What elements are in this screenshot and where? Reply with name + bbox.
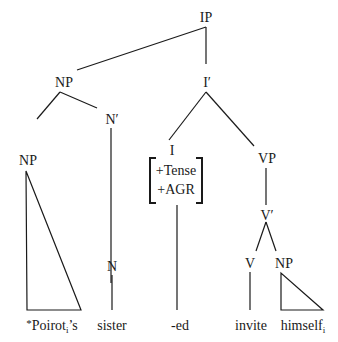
node-ip: IP: [200, 10, 213, 25]
node-i-bar: I′: [203, 75, 211, 90]
node-np-subject: NP: [55, 75, 73, 90]
node-i: I: [170, 143, 175, 158]
node-v: V: [245, 256, 255, 271]
right-bracket-icon: [196, 158, 202, 203]
edge-np-nbar: [60, 92, 97, 108]
edge-vbar-v: [256, 222, 266, 251]
node-v-bar: V′: [260, 208, 273, 223]
node-np-possessor: NP: [19, 153, 37, 168]
node-np-object: NP: [275, 256, 293, 271]
edge-ibar-vp: [206, 92, 254, 146]
leaf-possessor: *Poiroti’s: [26, 317, 78, 335]
edge-ibar-i: [169, 92, 206, 140]
feature-tense: +Tense: [156, 163, 196, 178]
feature-agr: +AGR: [157, 182, 195, 197]
node-n: N: [107, 259, 117, 274]
node-vp: VP: [258, 151, 276, 166]
triangle-possessor: [26, 171, 81, 310]
leaf-himself: himselfi: [281, 318, 326, 335]
edge-ip-np: [77, 27, 206, 70]
syntax-tree: IP NP I′ N′ NP I +Tense +AGR VP V′ N V N…: [0, 0, 338, 342]
edge-np-np: [37, 92, 60, 119]
node-n-bar: N′: [105, 112, 118, 127]
leaf-ed: -ed: [171, 318, 189, 333]
leaf-invite: invite: [235, 318, 267, 333]
leaf-sister: sister: [97, 318, 127, 333]
triangle-reflexive: [281, 273, 323, 310]
edge-vbar-np: [266, 222, 276, 251]
